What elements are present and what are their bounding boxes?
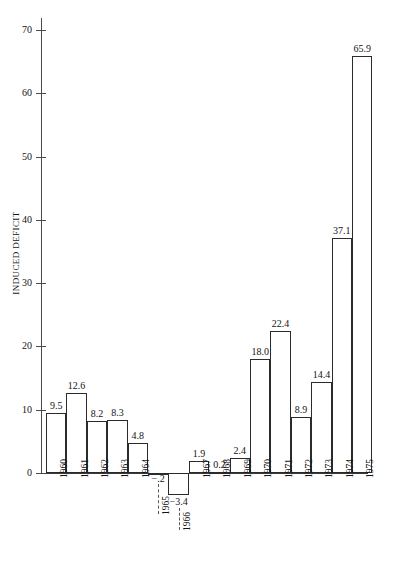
y-tick-20 <box>36 346 46 347</box>
y-tick-label-50: 50 <box>0 152 32 162</box>
value-label-1975: 65.9 <box>345 44 379 54</box>
y-tick-label-60: 60 <box>0 88 32 98</box>
value-label-1961: 12.6 <box>60 381 94 391</box>
y-axis-label: INDUCED DEFICIT <box>11 193 21 313</box>
value-label-1963: 8.3 <box>100 408 134 418</box>
y-tick-label-40: 40 <box>0 215 32 225</box>
value-label-1971: 22.4 <box>264 319 298 329</box>
year-label-1963: 1963 <box>121 459 131 478</box>
value-label-1964: 4.8 <box>121 431 155 441</box>
y-tick-30 <box>36 283 46 284</box>
year-label-1965: 1965 <box>162 496 172 515</box>
value-label-1974: 37.1 <box>325 226 359 236</box>
value-label-1973: 14.4 <box>304 370 338 380</box>
value-label-1970: 18.0 <box>243 347 277 357</box>
bar-1974 <box>332 238 352 473</box>
value-label-1960: 9.5 <box>39 401 73 411</box>
year-label-1973: 1973 <box>325 459 335 478</box>
y-tick-60 <box>36 93 46 94</box>
year-label-1966: 1966 <box>183 512 193 531</box>
year-label-1960: 1960 <box>60 459 70 478</box>
year-label-1964: 1964 <box>142 459 152 478</box>
figure-caption <box>6 556 396 565</box>
y-tick-label-30: 30 <box>0 278 32 288</box>
y-tick-50 <box>36 157 46 158</box>
bar-chart: INDUCED DEFICIT 010203040506070 9.512.68… <box>0 0 402 565</box>
year-label-1970: 1970 <box>264 459 274 478</box>
year-label-1968: 1968 <box>223 459 233 478</box>
year-label-1972: 1972 <box>305 459 315 478</box>
y-tick-40 <box>36 220 46 221</box>
value-label-1972: 8.9 <box>284 405 318 415</box>
value-label-1967: 1.9 <box>182 449 216 459</box>
y-tick-label-70: 70 <box>0 25 32 35</box>
y-tick-label-10: 10 <box>0 405 32 415</box>
leader-line-1965 <box>158 484 159 514</box>
value-label-1969: 2.4 <box>223 446 257 456</box>
year-label-1962: 1962 <box>101 459 111 478</box>
year-label-1961: 1961 <box>81 459 91 478</box>
leader-line-1966 <box>179 508 180 530</box>
bar-1970 <box>250 359 270 473</box>
year-label-1975: 1975 <box>366 459 376 478</box>
year-label-1974: 1974 <box>346 459 356 478</box>
year-label-1967: 1967 <box>203 459 213 478</box>
y-tick-70 <box>36 30 46 31</box>
y-tick-label-20: 20 <box>0 341 32 351</box>
year-label-1969: 1969 <box>244 459 254 478</box>
bar-1975 <box>352 56 372 473</box>
year-label-1971: 1971 <box>285 459 295 478</box>
y-tick-label-0: 0 <box>0 468 32 478</box>
y-tick-0 <box>36 473 46 474</box>
